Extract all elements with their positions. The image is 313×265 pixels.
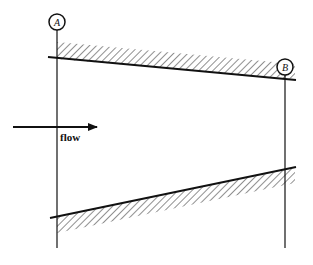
channel-diagram: A B flow (0, 0, 313, 265)
section-a-label: A (53, 17, 61, 28)
bottom-wall (50, 167, 296, 218)
section-b-label: B (282, 62, 288, 73)
bottom-wall-hatch (57, 168, 295, 233)
flow-label: flow (60, 131, 80, 143)
section-b-marker: B (277, 59, 293, 248)
